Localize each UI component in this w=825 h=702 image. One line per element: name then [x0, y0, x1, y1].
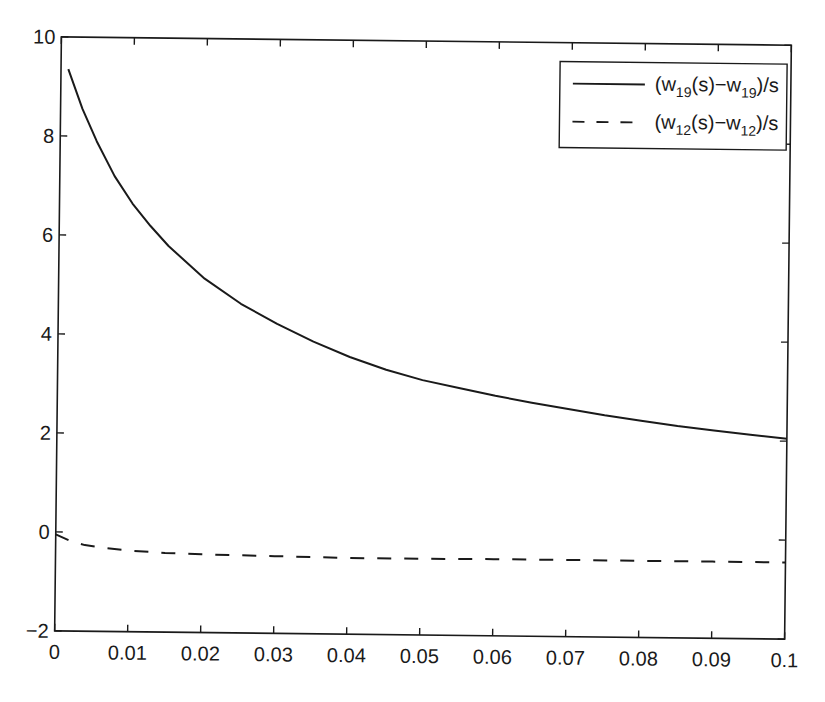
legend-solid-swatch: [573, 84, 645, 85]
x-tick-label: 0.01: [108, 641, 147, 663]
x-tick-label: 0.04: [327, 644, 366, 666]
y-tick-label: 4: [41, 323, 52, 345]
y-tick-label: −2: [26, 620, 49, 642]
x-tick-label: 0.09: [692, 648, 731, 670]
x-tick-label: 0.1: [770, 649, 798, 671]
x-tick-label: 0.02: [181, 642, 220, 664]
x-tick-label: 0.05: [400, 645, 439, 667]
x-tick-label: 0.07: [546, 646, 585, 668]
line-chart: −20246810 00.010.020.030.040.050.060.070…: [0, 0, 825, 702]
legend: (w19(s)−w19)/s(w12(s)−w12)/s: [559, 62, 787, 151]
x-tick-label: 0: [49, 641, 60, 663]
x-tick-label: 0.06: [473, 646, 512, 668]
y-tick-label: 10: [33, 26, 55, 48]
y-tick-label: 2: [40, 422, 51, 444]
x-tick-label: 0.08: [619, 647, 658, 669]
y-tick-label: 6: [42, 224, 53, 246]
x-tick-label: 0.03: [254, 643, 293, 665]
y-tick-label: 0: [39, 521, 50, 543]
y-tick-label: 8: [43, 125, 54, 147]
